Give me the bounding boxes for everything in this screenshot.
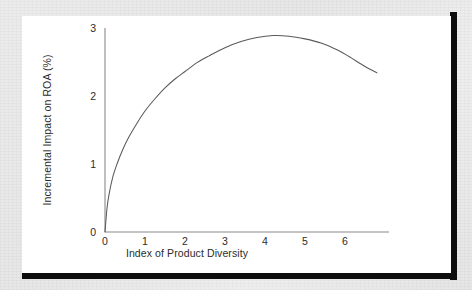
x-tick-label-0: 0 [97,235,113,247]
y-tick-label-3: 3 [82,22,96,34]
chart-plot-area: 3 2 1 0 0 1 2 3 4 5 6 Incremental Impact… [22,16,451,273]
x-tick-label-5: 5 [297,235,313,247]
x-tick-label-1: 1 [137,235,153,247]
y-tick-label-2: 2 [82,90,96,102]
x-tick-label-4: 4 [257,235,273,247]
card-shadow-right [450,12,457,280]
x-tick-label-3: 3 [217,235,233,247]
y-tick-label-0: 0 [82,226,96,238]
x-tick-label-6: 6 [337,235,353,247]
x-axis-title: Index of Product Diversity [22,247,352,259]
y-axis-title: Incremental Impact on ROA (%) [41,45,53,215]
y-tick-label-1: 1 [82,158,96,170]
x-tick-label-2: 2 [177,235,193,247]
data-series-line [105,35,377,232]
card-shadow-bottom [22,272,457,279]
figure-card: 3 2 1 0 0 1 2 3 4 5 6 Incremental Impact… [22,16,451,273]
